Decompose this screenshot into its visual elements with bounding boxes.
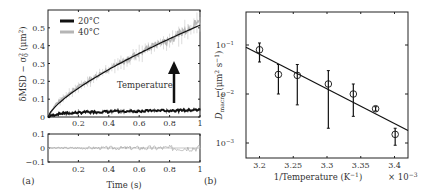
- y-tick-label: 0: [40, 113, 45, 122]
- y-tick-label: 0.1: [32, 95, 45, 104]
- y-tick-label: 0.4: [32, 42, 45, 51]
- panel-a-main-axes: 00.10.20.30.40.5 0.20.40.60.81 20°C 40°C…: [17, 10, 203, 128]
- y-tick-label: 0: [40, 144, 45, 153]
- legend: 20°C 40°C: [60, 16, 100, 37]
- x-tick-label: 0.4: [102, 119, 115, 128]
- panel-label-b: (b): [204, 176, 217, 186]
- x-tick-label: 0.6: [133, 119, 146, 128]
- x-tick-label: 0.6: [133, 165, 146, 174]
- x-tick-label: 0.2: [72, 165, 85, 174]
- temperature-annotation: Temperature: [117, 80, 173, 90]
- a-xlabel: Time (s): [106, 180, 141, 190]
- y-tick-label: 0.1: [32, 130, 45, 139]
- y-tick-label: 0.2: [32, 77, 45, 86]
- legend-20c: 20°C: [78, 16, 100, 26]
- x-tick-label: 3.35: [352, 161, 370, 170]
- panel-a-residual-axes: 0.10−0.1 0.20.40.60.81 Time (s) (a): [22, 130, 203, 190]
- legend-40c: 40°C: [78, 27, 100, 37]
- y-tick-label: 10−3: [216, 138, 235, 148]
- panel-b-axes: 10−110−210−3 3.23.253.33.353.4 1/Tempera…: [204, 12, 418, 186]
- x-tick-label: 1: [197, 119, 202, 128]
- y-tick-label: −0.1: [26, 158, 45, 167]
- a-ylabel: δMSD − σ20 (μm2): [17, 26, 29, 101]
- x-tick-label: 3.2: [253, 161, 266, 170]
- b-x-multiplier: × 10−3: [388, 171, 418, 182]
- figure: 00.10.20.30.40.5 0.20.40.60.81 20°C 40°C…: [0, 0, 430, 194]
- panel-label-a: (a): [22, 176, 34, 186]
- x-tick-label: 0.4: [102, 165, 115, 174]
- x-tick-label: 1: [197, 165, 202, 174]
- y-tick-label: 0.3: [32, 60, 45, 69]
- y-tick-label: 10−1: [216, 40, 234, 50]
- b-xlabel: 1/Temperature (K−1): [274, 171, 363, 182]
- x-tick-label: 0.8: [163, 119, 176, 128]
- fit-line: [246, 47, 408, 130]
- x-tick-label: 0.2: [72, 119, 85, 128]
- b-ylabel: Dmacro (μm2 s−1): [213, 51, 225, 121]
- x-tick-label: 0.8: [163, 165, 176, 174]
- x-tick-label: 3.25: [284, 161, 302, 170]
- y-tick-label: 0.5: [32, 24, 45, 33]
- x-tick-label: 3.3: [321, 161, 334, 170]
- x-tick-label: 3.4: [388, 161, 401, 170]
